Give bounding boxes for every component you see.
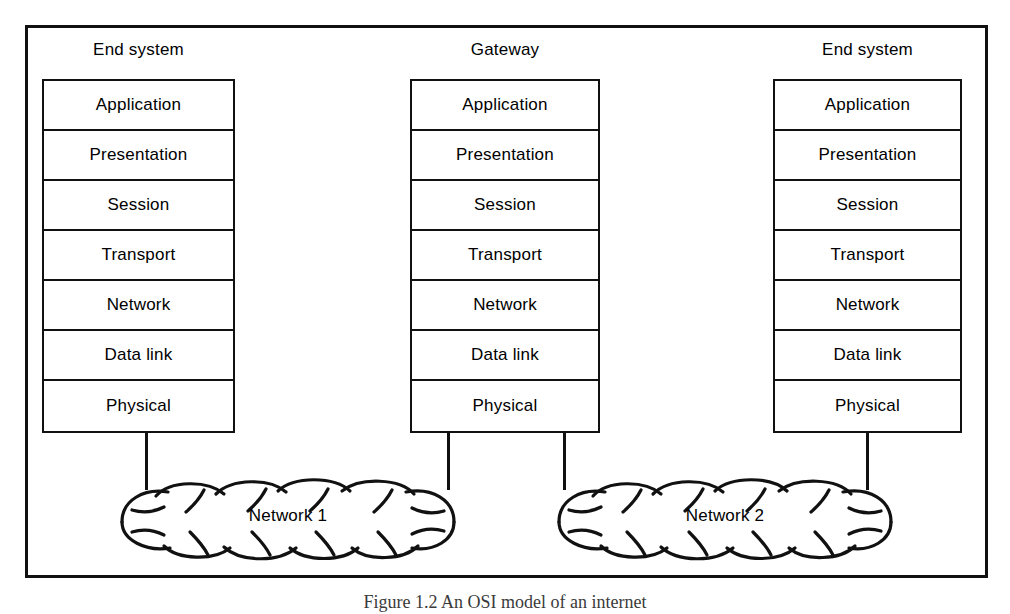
stack-box-left: Application Presentation Session Transpo… [42, 79, 235, 433]
figure-osi-internet-model: End system Application Presentation Sess… [0, 0, 1010, 614]
layer-row: Session [775, 181, 960, 231]
layer-row: Presentation [44, 131, 233, 181]
layer-row: Data link [412, 331, 598, 381]
layer-row: Presentation [775, 131, 960, 181]
layer-row: Data link [44, 331, 233, 381]
stack-title-gateway: Gateway [410, 40, 600, 60]
stack-box-gateway: Application Presentation Session Transpo… [410, 79, 600, 433]
layer-row: Physical [44, 381, 233, 431]
layer-row: Network [775, 281, 960, 331]
layer-row: Application [775, 81, 960, 131]
layer-row: Presentation [412, 131, 598, 181]
layer-row: Transport [44, 231, 233, 281]
stack-title-left: End system [42, 40, 235, 60]
cloud-label-network1: Network 1 [112, 506, 464, 526]
layer-row: Application [44, 81, 233, 131]
figure-caption: Figure 1.2 An OSI model of an internet [0, 592, 1010, 613]
layer-row: Data link [775, 331, 960, 381]
layer-row: Session [44, 181, 233, 231]
stack-title-right: End system [773, 40, 962, 60]
stack-box-right: Application Presentation Session Transpo… [773, 79, 962, 433]
layer-row: Transport [412, 231, 598, 281]
layer-row: Physical [775, 381, 960, 431]
layer-row: Application [412, 81, 598, 131]
network-cloud-2: Network 2 [549, 478, 901, 562]
layer-row: Session [412, 181, 598, 231]
layer-row: Transport [775, 231, 960, 281]
layer-row: Network [412, 281, 598, 331]
network-cloud-1: Network 1 [112, 478, 464, 562]
layer-row: Physical [412, 381, 598, 431]
cloud-label-network2: Network 2 [549, 506, 901, 526]
layer-row: Network [44, 281, 233, 331]
